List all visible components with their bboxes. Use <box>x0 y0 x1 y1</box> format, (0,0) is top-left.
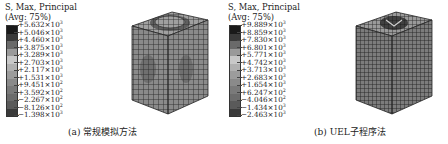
panel-b: S, Max, Principal (Avg: 75%) +9.889×103+… <box>224 0 448 144</box>
colorbar-labels: +5.632×103+5.046×103+4.460×103+3.875×103… <box>18 21 63 119</box>
panel-a: S, Max, Principal (Avg: 75%) +5.632×103+… <box>0 0 224 144</box>
mesh-block-model-b <box>352 4 440 116</box>
colorbar-label: −1.398×103 <box>18 111 63 119</box>
legend-b: S, Max, Principal (Avg: 75%) +9.889×103+… <box>228 3 300 117</box>
mesh-block-model-a <box>128 4 216 116</box>
caption-b: (b) UEL子程序法 <box>314 125 386 138</box>
caption-a: (a) 常规模拟方法 <box>68 125 137 138</box>
legend-a: S, Max, Principal (Avg: 75%) +5.632×103+… <box>5 3 77 117</box>
colorbar-labels: +9.889×103+8.859×103+7.830×103+6.801×103… <box>241 21 286 119</box>
colorbar-label: −2.463×103 <box>241 111 286 119</box>
